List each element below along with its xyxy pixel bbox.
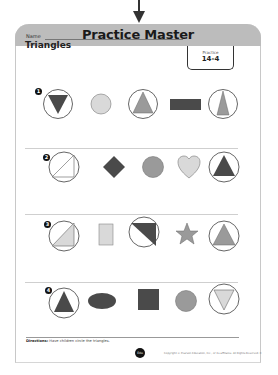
- tall-rectangle-shape[interactable]: [99, 224, 113, 245]
- name-label: Name: [26, 33, 41, 39]
- rectangle-shape[interactable]: [170, 99, 201, 110]
- directions-divider: [26, 337, 239, 338]
- circle-shape[interactable]: [143, 157, 164, 178]
- oval-shape[interactable]: [88, 293, 116, 309]
- publisher-logo: Edu: [135, 348, 145, 358]
- arrow-down-icon: [133, 11, 145, 23]
- heart-shape[interactable]: [178, 156, 200, 178]
- right-triangle-circled[interactable]: [49, 221, 79, 251]
- triangle-up-circled[interactable]: [49, 288, 79, 318]
- triangle-down-circled[interactable]: [44, 90, 73, 119]
- directions-label: Directions:: [26, 339, 48, 343]
- circle-shape[interactable]: [176, 291, 197, 312]
- tall-triangle-circled[interactable]: [209, 90, 238, 119]
- square-shape[interactable]: [138, 289, 159, 310]
- right-triangle-outline-circled[interactable]: [49, 152, 79, 182]
- copyright-text: Copyright © Pearson Education, Inc., or …: [164, 352, 262, 355]
- circle-shape[interactable]: [91, 94, 111, 114]
- row-1-shapes: [40, 86, 260, 122]
- practice-tab: Practice 14-4: [187, 46, 234, 70]
- row-4-shapes: [40, 280, 260, 320]
- row-2-shapes: [40, 148, 260, 184]
- diamond-shape[interactable]: [103, 156, 125, 178]
- right-triangle-top-circled[interactable]: [129, 217, 159, 247]
- practice-number: 14-4: [188, 55, 233, 64]
- directions-text: Have children circle the triangles.: [49, 339, 110, 343]
- row-3-shapes: [40, 214, 260, 252]
- triangle-down-circled[interactable]: [209, 284, 239, 314]
- triangle-up-circled[interactable]: [209, 221, 239, 251]
- star-shape[interactable]: [176, 223, 198, 244]
- directions: Directions: Have children circle the tri…: [26, 339, 110, 343]
- triangle-up-circled[interactable]: [129, 90, 158, 119]
- worksheet-title: Triangles: [25, 40, 71, 50]
- triangle-up-circled[interactable]: [209, 152, 239, 182]
